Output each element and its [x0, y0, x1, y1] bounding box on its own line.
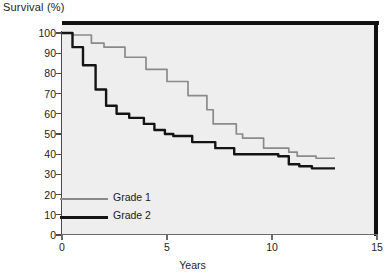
survival-chart: Survival (%) 0102030405060708090100 0510…: [0, 0, 385, 277]
legend-label-grade-2: Grade 2: [113, 209, 151, 221]
curve-grade-2: [62, 33, 335, 168]
survival-curves: [0, 0, 385, 277]
curve-grade-1: [62, 33, 335, 158]
legend-label-grade-1: Grade 1: [113, 191, 151, 203]
legend-swatch-grade-1: [60, 198, 108, 200]
legend-swatch-grade-2: [60, 216, 108, 219]
x-axis-title: Years: [0, 259, 385, 271]
